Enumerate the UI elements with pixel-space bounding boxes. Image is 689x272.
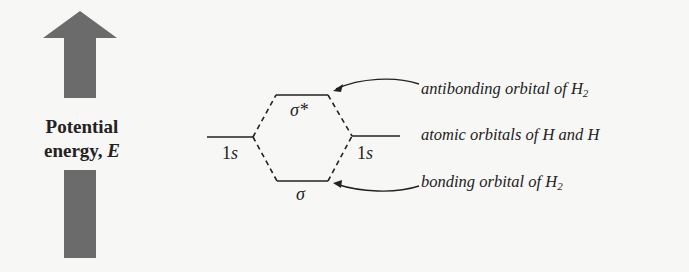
left-1s-label: 1s (222, 143, 238, 163)
bonding-pointer-arrow-icon (336, 184, 419, 191)
annotation-subscript: 2 (583, 87, 589, 99)
axis-label-line1: Potential (22, 115, 142, 139)
bonding-label: σ (296, 184, 305, 204)
axis-label-text: energy, (44, 140, 103, 161)
label-sub: s (366, 143, 373, 163)
energy-axis-label: Potential energy, E (22, 115, 142, 163)
right-1s-label: 1s (357, 143, 373, 163)
antibonding-pointer-arrow-icon (336, 79, 419, 89)
label-sub: s (231, 143, 238, 163)
bonding-annotation: bonding orbital of H2 (421, 172, 563, 196)
label-num: 1 (357, 143, 366, 163)
atomic-annotation: atomic orbitals of H and H (421, 125, 599, 145)
label-num: 1 (222, 143, 231, 163)
antibonding-annotation: antibonding orbital of H2 (421, 79, 588, 103)
axis-label-variable: E (107, 140, 120, 161)
annotation-text: antibonding orbital of H (421, 79, 583, 98)
antibonding-label: σ* (290, 100, 308, 120)
annotation-text: bonding orbital of H (421, 172, 557, 191)
axis-label-line2: energy, E (22, 139, 142, 163)
annotation-subscript: 2 (557, 180, 563, 192)
